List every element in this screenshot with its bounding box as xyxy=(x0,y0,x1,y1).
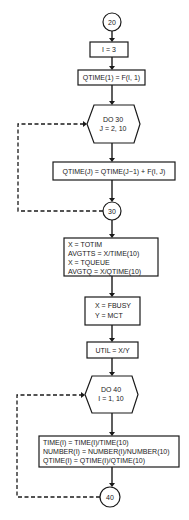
svg-text:AVGTTS = X/TIME(10): AVGTTS = X/TIME(10) xyxy=(68,250,139,258)
qtimej-box: QTIME(J) = QTIME(J−1) + F(I, J) xyxy=(53,162,175,180)
util-box: UTIL = X/Y xyxy=(87,342,138,358)
loop30-hexagon: DO 30 J = 2, 10 xyxy=(87,105,140,143)
qtime1-box: QTIME(1) = F(I, 1) xyxy=(78,70,145,85)
svg-text:I = 1, 10: I = 1, 10 xyxy=(98,395,124,402)
svg-text:TIME(I) = TIME(I)/TIME(10): TIME(I) = TIME(I)/TIME(10) xyxy=(43,439,129,447)
svg-text:J = 2, 10: J = 2, 10 xyxy=(99,125,126,132)
svg-text:X = TOTIM: X = TOTIM xyxy=(68,241,102,248)
svg-text:QTIME(1) = F(I, 1): QTIME(1) = F(I, 1) xyxy=(83,74,140,82)
normalize-box: TIME(I) = TIME(I)/TIME(10) NUMBER(I) = N… xyxy=(39,436,179,467)
svg-text:AVGTQ = X/QTIME(10): AVGTQ = X/QTIME(10) xyxy=(68,268,141,276)
svg-text:20: 20 xyxy=(108,19,116,26)
averages-box: X = TOTIM AVGTTS = X/TIME(10) X = TQUEUE… xyxy=(64,238,158,276)
svg-text:QTIME(I) = QTIME(I)/QTIME(10): QTIME(I) = QTIME(I)/QTIME(10) xyxy=(43,457,145,465)
flowchart: 20 I = 3 QTIME(1) = F(I, 1) DO 30 J = 2,… xyxy=(0,0,189,520)
svg-text:QTIME(J) = QTIME(J−1) + F(I, J: QTIME(J) = QTIME(J−1) + F(I, J) xyxy=(63,168,166,176)
svg-text:I = 3: I = 3 xyxy=(102,46,116,53)
svg-text:X = FBUSY: X = FBUSY xyxy=(95,302,131,309)
init-i-box: I = 3 xyxy=(90,42,128,57)
svg-text:40: 40 xyxy=(106,494,114,501)
svg-text:Y = MCT: Y = MCT xyxy=(95,312,123,319)
connector-30: 30 xyxy=(103,202,121,220)
svg-text:UTIL = X/Y: UTIL = X/Y xyxy=(95,347,130,354)
connector-20: 20 xyxy=(103,13,121,31)
svg-text:NUMBER(I) = NUMBER(I)/NUMBER(1: NUMBER(I) = NUMBER(I)/NUMBER(10) xyxy=(43,448,170,456)
loop40-hexagon: DO 40 I = 1, 10 xyxy=(85,376,138,413)
svg-text:30: 30 xyxy=(108,208,116,215)
svg-text:DO 40: DO 40 xyxy=(101,386,121,393)
svg-text:DO 30: DO 30 xyxy=(103,116,123,123)
busy-box: X = FBUSY Y = MCT xyxy=(85,297,140,325)
connector-40: 40 xyxy=(100,487,120,507)
svg-text:X = TQUEUE: X = TQUEUE xyxy=(68,259,110,267)
